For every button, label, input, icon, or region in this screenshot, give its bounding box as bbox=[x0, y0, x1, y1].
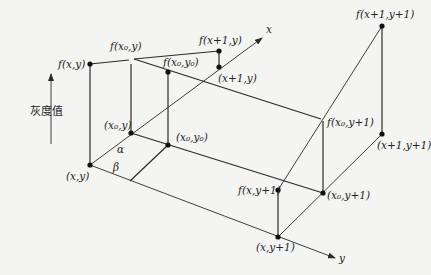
label-f-x0y: f(x₀,y) bbox=[109, 40, 141, 52]
diagram-svg: 灰度值 x y f(x,y) (x,y) f(x₀,y) (x₀,y) f(x₀… bbox=[0, 0, 431, 275]
label-f-xy1: f(x,y+1) bbox=[237, 184, 281, 196]
point-x0y bbox=[128, 130, 133, 135]
y-axis bbox=[90, 165, 335, 258]
label-f-x1y1: f(x+1,y+1) bbox=[355, 8, 414, 20]
point-xy1 bbox=[275, 234, 280, 239]
point-f-x1y1 bbox=[379, 23, 384, 28]
top-line-y1 bbox=[278, 26, 382, 190]
label-xy: (x,y) bbox=[66, 170, 89, 182]
point-x1y1 bbox=[379, 131, 384, 136]
label-x0y1: (x₀,y+1) bbox=[327, 189, 370, 201]
base-line-y1 bbox=[278, 134, 382, 237]
point-f-xy bbox=[87, 61, 92, 66]
label-f-x1y: f(x+1,y) bbox=[198, 34, 242, 46]
label-xy1: (x,y+1) bbox=[256, 241, 295, 253]
label-f-x0y1: f(x₀,y+1) bbox=[326, 116, 374, 128]
bilinear-interpolation-diagram: 灰度值 x y f(x,y) (x,y) f(x₀,y) (x₀,y) f(x₀… bbox=[0, 0, 431, 275]
y-axis-label: y bbox=[338, 252, 346, 264]
label-x0y0: (x₀,y₀) bbox=[176, 131, 208, 143]
point-x1y bbox=[216, 64, 221, 69]
label-x1y1: (x+1,y+1) bbox=[377, 139, 431, 151]
point-x0y0 bbox=[165, 142, 170, 147]
label-x0y: (x₀,y) bbox=[104, 119, 132, 131]
beta-projection-line bbox=[130, 145, 168, 181]
label-f-xy: f(x,y) bbox=[57, 58, 85, 70]
label-alpha: α bbox=[117, 143, 124, 155]
label-x1y: (x+1,y) bbox=[218, 72, 257, 84]
point-f-x0y0 bbox=[165, 69, 170, 74]
point-xy bbox=[87, 162, 92, 167]
label-f-x0y0: f(x₀,y₀) bbox=[162, 56, 199, 68]
base-line-x0 bbox=[131, 133, 323, 193]
x-axis-label: x bbox=[266, 23, 272, 35]
point-f-x1y bbox=[216, 48, 221, 53]
top-line-left bbox=[90, 60, 129, 64]
top-line-x0 bbox=[134, 59, 321, 119]
point-x0y1 bbox=[320, 190, 325, 195]
gray-value-label: 灰度值 bbox=[30, 104, 63, 118]
label-beta: β bbox=[112, 161, 119, 173]
